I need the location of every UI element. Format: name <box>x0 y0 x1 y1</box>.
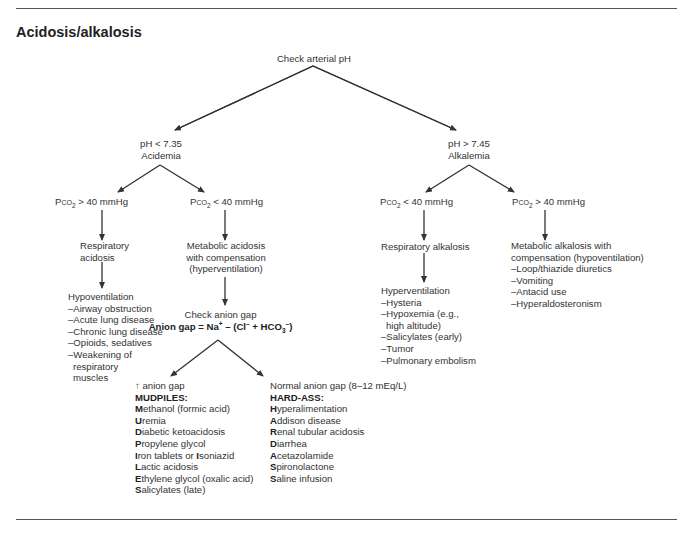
item-text: actic acidosis <box>141 461 198 472</box>
met-alkalosis-item: –Antacid use <box>511 286 644 298</box>
mnemonic-letter: M <box>135 403 143 414</box>
mudpiles-item: Iron tablets or Isoniazid <box>135 450 253 462</box>
mudpiles-mnemonic: MUDPILES: <box>135 392 253 404</box>
pco2-value: 40 mmHg <box>221 196 263 207</box>
item-text: iarrhea <box>277 438 307 449</box>
metabolic-alkalosis-node: Metabolic alkalosis with compensation (h… <box>511 240 644 310</box>
item-text: cetazolamide <box>277 450 334 461</box>
mnemonic-letter: D <box>270 438 277 449</box>
mudpiles-item: Lactic acidosis <box>135 461 253 473</box>
hypoventilation-item: –Opioids, sedatives <box>68 337 163 349</box>
formula-part: + HCO <box>250 321 282 332</box>
met-alkalosis-item: –Loop/thiazide diuretics <box>511 263 644 275</box>
met-alkalosis-item: –Hyperaldosteronism <box>511 298 644 310</box>
mudpiles-item: Methanol (formic acid) <box>135 403 253 415</box>
met-acidosis-line: Metabolic acidosis <box>180 240 272 252</box>
item-text: iabetic ketoacidosis <box>142 426 225 437</box>
met-alkalosis-line: compensation (hypoventilation) <box>511 252 644 264</box>
anion-gap-node: Check anion gap Anion gap = Na+ – (Cl– +… <box>148 309 293 332</box>
hypoventilation-heading: Hypoventilation <box>68 291 163 303</box>
mnemonic-letter: A <box>270 450 277 461</box>
alkalemia-label: Alkalemia <box>441 150 497 162</box>
hyperventilation-item: –Pulmonary embolism <box>381 355 476 367</box>
hypoventilation-node: Hypoventilation –Airway obstruction –Acu… <box>68 291 163 384</box>
acidemia-condition: pH < 7.35 <box>133 138 189 150</box>
hyperventilation-item: high altitude) <box>381 320 476 332</box>
pco2-value: 40 mmHg <box>86 196 128 207</box>
alkalemia-node: pH > 7.45 Alkalemia <box>441 138 497 161</box>
pco2-low-acidemia: Pco2 < 40 mmHg <box>190 196 263 208</box>
hardass-mnemonic: HARD-ASS: <box>270 392 407 404</box>
high-gap-heading-text: anion gap <box>142 380 184 391</box>
anion-gap-formula: Anion gap = Na+ – (Cl– + HCO3–) <box>148 321 293 333</box>
respiratory-alkalosis-node: Respiratory alkalosis <box>381 241 470 253</box>
mudpiles-item: Propylene glycol <box>135 438 253 450</box>
hardass-item: Saline infusion <box>270 473 407 485</box>
high-gap-heading: ↑ anion gap <box>135 380 253 392</box>
item-text: ron tablets or <box>138 450 197 461</box>
hypoventilation-item: respiratory <box>68 361 163 373</box>
normal-gap-heading: Normal anion gap (8–12 mEq/L) <box>270 380 407 392</box>
met-acidosis-line: with compensation <box>180 252 272 264</box>
root-node-check-ph: Check arterial pH <box>272 53 356 65</box>
item-text: ropylene glycol <box>141 438 205 449</box>
mnemonic-letter: R <box>270 426 277 437</box>
up-arrow-icon: ↑ <box>135 380 140 391</box>
pco2-high-acidemia: Pco2 > 40 mmHg <box>55 196 128 208</box>
mnemonic-letter: U <box>135 415 142 426</box>
item-text: alicylates (late) <box>141 484 205 495</box>
hardass-item: Spironolactone <box>270 461 407 473</box>
acidemia-label: Acidemia <box>133 150 189 162</box>
respiratory-acidosis-node: Respiratory acidosis <box>80 240 129 263</box>
hyperventilation-item: –Tumor <box>381 343 476 355</box>
item-text: thylene glycol (oxalic acid) <box>141 473 253 484</box>
normal-anion-gap-node: Normal anion gap (8–12 mEq/L) HARD-ASS: … <box>270 380 407 484</box>
high-anion-gap-node: ↑ anion gap MUDPILES: Methanol (formic a… <box>135 380 253 496</box>
hypoventilation-item: –Weakening of <box>68 349 163 361</box>
formula-part: – (Cl <box>223 321 246 332</box>
alkalemia-condition: pH > 7.45 <box>441 138 497 150</box>
hardass-item: Addison disease <box>270 415 407 427</box>
hyperventilation-node: Hyperventilation –Hysteria –Hypoxemia (e… <box>381 285 476 366</box>
item-text: aline infusion <box>276 473 332 484</box>
hardass-item: Diarrhea <box>270 438 407 450</box>
mudpiles-item: Uremia <box>135 415 253 427</box>
resp-acidosis-line: Respiratory <box>80 240 129 252</box>
mudpiles-item: Ethylene glycol (oxalic acid) <box>135 473 253 485</box>
pco2-low-alkalemia: Pco2 < 40 mmHg <box>380 196 453 208</box>
mnemonic-letter: A <box>270 415 277 426</box>
hardass-item: Hyperalimentation <box>270 403 407 415</box>
met-acidosis-line: (hyperventilation) <box>180 263 272 275</box>
item-text: ethanol (formic acid) <box>143 403 230 414</box>
hardass-item: Acetazolamide <box>270 450 407 462</box>
hyperventilation-item: –Salicylates (early) <box>381 331 476 343</box>
hyperventilation-heading: Hyperventilation <box>381 285 476 297</box>
met-alkalosis-item: –Vomiting <box>511 275 644 287</box>
item-text: pironolactone <box>276 461 334 472</box>
item-text: remia <box>142 415 166 426</box>
pco2-value: 40 mmHg <box>543 196 585 207</box>
mudpiles-item: Diabetic ketoacidosis <box>135 426 253 438</box>
acidemia-node: pH < 7.35 Acidemia <box>133 138 189 161</box>
item-text: yperalimentation <box>277 403 347 414</box>
hyperventilation-item: –Hypoxemia (e.g., <box>381 308 476 320</box>
bottom-divider <box>16 519 677 520</box>
formula-part: Anion gap = Na <box>149 321 219 332</box>
metabolic-acidosis-node: Metabolic acidosis with compensation (hy… <box>180 240 272 275</box>
met-alkalosis-line: Metabolic alkalosis with <box>511 240 644 252</box>
hyperventilation-item: –Hysteria <box>381 297 476 309</box>
item-text: enal tubular acidosis <box>277 426 364 437</box>
pco2-high-alkalemia: Pco2 > 40 mmHg <box>512 196 585 208</box>
item-text: soniazid <box>199 450 234 461</box>
pco2-value: 40 mmHg <box>411 196 453 207</box>
resp-acidosis-line: acidosis <box>80 252 129 264</box>
mnemonic-letter: H <box>270 403 277 414</box>
item-text: ddison disease <box>277 415 341 426</box>
mudpiles-item: Salicylates (late) <box>135 484 253 496</box>
formula-part: ) <box>289 321 292 332</box>
mnemonic-letter: D <box>135 426 142 437</box>
hardass-item: Renal tubular acidosis <box>270 426 407 438</box>
